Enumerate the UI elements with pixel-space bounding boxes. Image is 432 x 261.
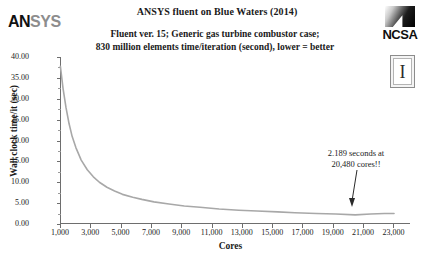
ansys-logo-light-text: SYS — [30, 13, 61, 30]
x-axis-tick-mark — [90, 224, 91, 228]
y-axis-tick-label: 40.00 — [0, 53, 29, 61]
x-axis-tick-mark — [60, 224, 61, 228]
x-axis-tick-mark — [302, 224, 303, 228]
ncsa-logo: NCSA — [374, 6, 426, 41]
annotation-label: 2.189 seconds at 20,480 cores!! — [295, 148, 417, 170]
chart-screenshot: ANSYS ANSYS fluent on Blue Waters (2014)… — [0, 0, 432, 261]
x-axis-tick-mark — [212, 224, 213, 228]
x-axis-tick-mark — [272, 224, 273, 228]
y-axis-title: Wall clock time/it (sec) — [9, 61, 19, 201]
x-axis-tick-mark — [121, 224, 122, 228]
ncsa-mark-icon — [385, 6, 415, 27]
ncsa-logo-text: NCSA — [374, 28, 426, 41]
annotation-arrow-icon — [330, 168, 370, 210]
x-axis-title: Cores — [60, 241, 401, 251]
x-axis-tick-mark — [151, 224, 152, 228]
chart-title: ANSYS fluent on Blue Waters (2014) — [86, 6, 348, 17]
x-axis-tick-mark — [242, 224, 243, 228]
ansys-logo: ANSYS — [8, 13, 61, 31]
annotation-line-1: 2.189 seconds at — [295, 148, 417, 159]
y-axis-tick-label: 0.00 — [0, 220, 29, 228]
ansys-logo-bold-text: AN — [8, 13, 30, 30]
chart-subtitle-line-1: Fluent ver. 15; Generic gas turbine comb… — [60, 28, 370, 41]
x-axis-tick-mark — [393, 224, 394, 228]
x-axis-tick-mark — [181, 224, 182, 228]
x-axis-tick-mark — [363, 224, 364, 228]
chart-subtitle-line-2: 830 million elements time/iteration (sec… — [60, 41, 370, 54]
x-axis-tick-label: 23,000 — [370, 228, 416, 237]
x-axis-tick-mark — [333, 224, 334, 228]
chart-subtitle: Fluent ver. 15; Generic gas turbine comb… — [60, 28, 370, 54]
